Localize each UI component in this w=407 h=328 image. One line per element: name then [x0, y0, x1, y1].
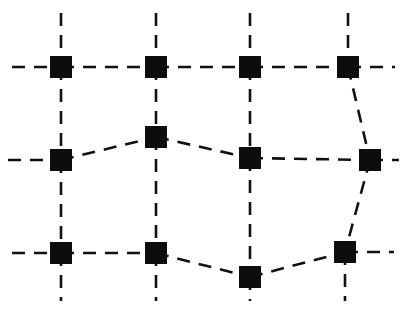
- mesh-node-n-r2c1: [50, 149, 72, 171]
- mesh-node-n-r2c2: [145, 126, 167, 148]
- mesh-node-layer: [50, 56, 381, 288]
- mesh-node-n-r1c2: [145, 56, 167, 78]
- mesh-edge-e-r2-c3-c4: [250, 158, 370, 160]
- mesh-node-n-r3c2: [145, 242, 167, 264]
- mesh-node-n-r2c4: [359, 149, 381, 171]
- mesh-node-n-r1c1: [50, 56, 72, 78]
- mesh-node-n-r3c3: [239, 266, 261, 288]
- mesh-edge-e-r2-c2-c3: [156, 137, 250, 158]
- mesh-node-n-r2c3: [239, 147, 261, 169]
- mesh-node-n-r3c4: [334, 241, 356, 263]
- mesh-node-n-r3c1: [50, 242, 72, 264]
- mesh-edge-e-r3-c2-c3: [156, 253, 250, 277]
- mesh-diagram-canvas: [0, 0, 407, 328]
- mesh-edge-e-c4-r2-r3: [345, 160, 370, 252]
- mesh-edge-layer: [61, 67, 370, 277]
- mesh-edge-e-c4-r1-r2: [348, 67, 370, 160]
- mesh-node-n-r1c4: [337, 56, 359, 78]
- mesh-edge-e-r3-c3-c4: [250, 252, 345, 277]
- mesh-node-n-r1c3: [239, 56, 261, 78]
- mesh-diagram-svg: [0, 0, 407, 328]
- mesh-edge-e-r2-c1-c2: [61, 137, 156, 160]
